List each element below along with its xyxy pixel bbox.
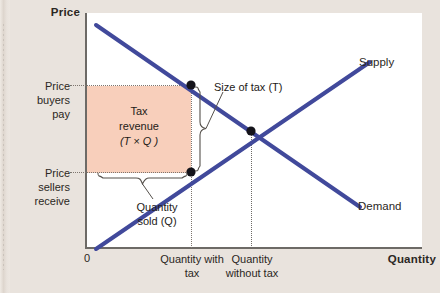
- page-edge-shading: [0, 0, 10, 293]
- page-perforation-line: [3, 24, 4, 270]
- quantity-sold-line1: Quantity: [137, 201, 178, 213]
- supply-demand-tax-diagram: Tax revenue (T × Q ) Price Quantity 0 Pr…: [10, 0, 440, 293]
- quantity-sold-annotation: Quantity sold (Q): [121, 200, 193, 228]
- quantity-sold-brace: [98, 173, 187, 184]
- quantity-sold-line2: sold (Q): [137, 215, 176, 227]
- size-of-tax-annotation: Size of tax (T): [214, 80, 282, 94]
- price-buyers-pay-point: [186, 80, 195, 89]
- origin-label: 0: [80, 252, 94, 264]
- equilibrium-point: [246, 126, 255, 135]
- x-axis-title: Quantity: [362, 253, 436, 265]
- price-sellers-receive-point: [186, 167, 195, 176]
- demand-curve: [96, 25, 360, 207]
- xtick-quantity-without-tax: Quantity without tax: [213, 252, 291, 280]
- price-sellers-receive-label: Price sellers receive: [24, 166, 70, 208]
- y-axis-title: Price: [30, 6, 80, 18]
- size-of-tax-text: Size of tax (T): [214, 81, 282, 93]
- curves-and-braces: [10, 0, 440, 293]
- quantity-sold-leader: [143, 184, 154, 199]
- price-buyers-pay-label: Price buyers pay: [24, 79, 70, 121]
- supply-curve-label: Supply: [359, 56, 394, 68]
- demand-curve-label: Demand: [358, 200, 401, 212]
